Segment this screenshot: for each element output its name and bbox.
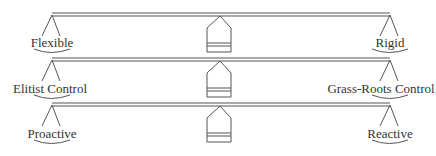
- label-reactive: Reactive: [367, 127, 412, 140]
- fulcrum-2: [207, 61, 231, 97]
- label-grass-roots-control: Grass-Roots Control: [327, 82, 434, 95]
- label-flexible: Flexible: [31, 36, 74, 49]
- scale-1: [34, 13, 408, 53]
- label-rigid: Rigid: [376, 36, 405, 49]
- label-proactive: Proactive: [27, 127, 76, 140]
- scale-3: [34, 103, 408, 144]
- label-elitist-control: Elitist Control: [13, 82, 87, 95]
- fulcrum-1: [207, 16, 231, 52]
- fulcrum-3: [207, 106, 231, 142]
- left-pan-strings-1: [42, 15, 60, 36]
- right-pan-strings-1: [380, 15, 398, 36]
